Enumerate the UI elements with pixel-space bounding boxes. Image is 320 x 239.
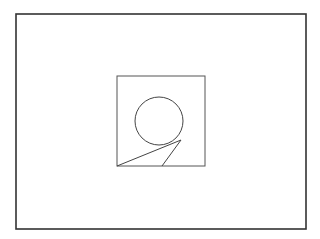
outer-frame	[16, 14, 306, 229]
diagram-canvas	[0, 0, 320, 239]
inner-square	[117, 76, 205, 166]
circle	[135, 97, 183, 145]
